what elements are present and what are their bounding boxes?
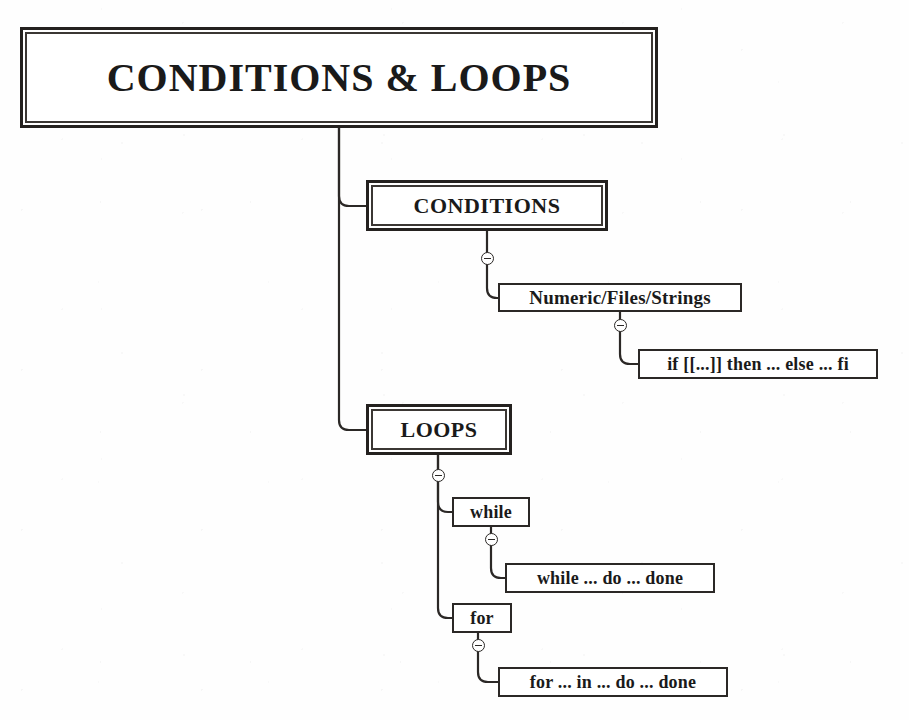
- root-node-conditions-and-loops[interactable]: CONDITIONS & LOOPS: [20, 27, 658, 128]
- minus-circle-icon-while[interactable]: [485, 533, 498, 546]
- minus-circle-icon-loops[interactable]: [432, 469, 445, 482]
- node-while-do-done-label: while ... do ... done: [537, 568, 683, 589]
- node-for[interactable]: for: [452, 603, 512, 633]
- node-if-statement-label: if [[...]] then ... else ... fi: [667, 354, 849, 375]
- node-conditions-label: CONDITIONS: [414, 193, 561, 219]
- node-for-in-do-done[interactable]: for ... in ... do ... done: [498, 667, 728, 697]
- minus-circle-icon-conditions[interactable]: [481, 252, 494, 265]
- node-for-in-do-done-label: for ... in ... do ... done: [530, 672, 696, 693]
- node-loops-label: LOOPS: [400, 417, 477, 443]
- node-conditions[interactable]: CONDITIONS: [366, 180, 608, 231]
- node-while-label: while: [470, 502, 512, 523]
- node-if-statement[interactable]: if [[...]] then ... else ... fi: [638, 349, 878, 379]
- node-loops[interactable]: LOOPS: [366, 404, 512, 455]
- node-while-do-done[interactable]: while ... do ... done: [505, 563, 715, 593]
- node-for-label: for: [470, 608, 494, 629]
- minus-circle-icon-for[interactable]: [472, 639, 485, 652]
- node-numeric-files-strings-label: Numeric/Files/Strings: [529, 287, 711, 309]
- minus-circle-icon-numeric-files-strings[interactable]: [614, 319, 627, 332]
- root-node-label: CONDITIONS & LOOPS: [107, 54, 572, 101]
- node-numeric-files-strings[interactable]: Numeric/Files/Strings: [498, 283, 742, 312]
- edge-root-conditions: [339, 128, 366, 206]
- edge-root-loops: [339, 128, 366, 430]
- node-while[interactable]: while: [452, 497, 530, 527]
- mindmap-canvas: CONDITIONS & LOOPS CONDITIONS LOOPS Nume…: [0, 0, 909, 720]
- edge-loops-while: [438, 455, 452, 512]
